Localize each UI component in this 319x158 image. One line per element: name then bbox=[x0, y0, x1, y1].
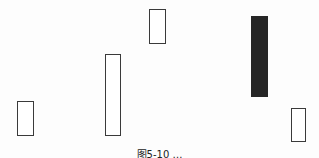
candle-body-hollow bbox=[149, 9, 166, 44]
diagram-canvas: 图5-10 … bbox=[0, 0, 319, 158]
candle-body-filled bbox=[251, 16, 268, 97]
candle-body-hollow bbox=[105, 54, 121, 136]
candle-body-hollow bbox=[291, 108, 306, 142]
candle-body-hollow bbox=[17, 101, 34, 136]
figure-caption: 图5-10 … bbox=[0, 149, 319, 158]
